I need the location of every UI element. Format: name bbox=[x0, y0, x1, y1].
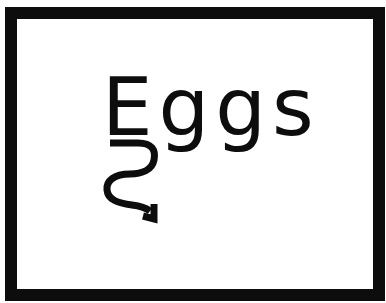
letter-s: s bbox=[272, 68, 320, 148]
sign-frame bbox=[5, 7, 385, 301]
letter-g-2: g bbox=[215, 68, 272, 148]
eggs-word: Eggs bbox=[102, 68, 320, 148]
letter-e: E bbox=[102, 68, 159, 148]
letter-g-1: g bbox=[159, 68, 216, 148]
